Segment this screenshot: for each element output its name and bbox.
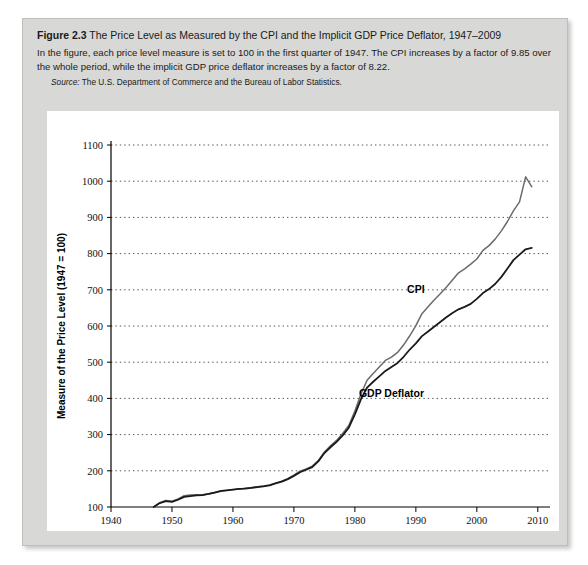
y-tick-label-700: 700	[87, 285, 103, 296]
x-tick-label-1960: 1960	[222, 515, 243, 526]
x-tick-label-1940: 1940	[101, 515, 122, 526]
x-tick-label-2000: 2000	[466, 515, 487, 526]
axes-group	[107, 141, 550, 507]
y-tick-label-600: 600	[87, 321, 103, 332]
y-tick-label-1100: 1100	[82, 140, 103, 151]
annotation-gdp-deflator: GDP Deflator	[359, 387, 424, 399]
annotation-cpi: CPI	[407, 283, 425, 295]
source-text: The U.S. Department of Commerce and the …	[82, 77, 342, 87]
figure-number: Figure 2.3	[37, 29, 87, 41]
y-tick-label-300: 300	[87, 429, 103, 440]
y-tick-label-500: 500	[87, 357, 103, 368]
source-label: Source:	[51, 77, 80, 87]
y-axis-tick-labels: 10020030040050060070080090010001100	[82, 140, 103, 513]
y-tick-label-200: 200	[87, 466, 103, 477]
y-tick-label-800: 800	[87, 248, 103, 259]
figure-card: Figure 2.3 The Price Level as Measured b…	[22, 18, 568, 546]
x-tick-label-1970: 1970	[283, 515, 304, 526]
x-tick-marks	[111, 507, 538, 512]
y-tick-label-400: 400	[87, 393, 103, 404]
y-tick-label-100: 100	[87, 502, 103, 513]
y-axis-title: Measure of the Price Level (1947 = 100)	[56, 233, 67, 419]
figure-title-text: The Price Level as Measured by the CPI a…	[89, 29, 501, 41]
x-axis-tick-labels: 19401950196019701980199020002010	[101, 515, 549, 526]
price-level-line-chart: 10020030040050060070080090010001100 1940…	[47, 111, 559, 531]
x-tick-label-2010: 2010	[527, 515, 548, 526]
figure-subtitle: In the figure, each price level measure …	[37, 46, 553, 74]
series-annotations: CPIGDP Deflator	[359, 283, 425, 398]
figure-source: Source: The U.S. Department of Commerce …	[51, 77, 553, 88]
caption-block: Figure 2.3 The Price Level as Measured b…	[37, 29, 553, 88]
chart-plot-panel: 10020030040050060070080090010001100 1940…	[47, 111, 559, 531]
data-series-group	[154, 177, 532, 507]
y-tick-label-900: 900	[87, 212, 103, 223]
gridlines-group	[111, 145, 550, 471]
y-tick-label-1000: 1000	[82, 176, 103, 187]
series-line-gdp-deflator	[154, 248, 532, 507]
series-line-cpi	[154, 177, 532, 507]
x-tick-label-1980: 1980	[344, 515, 365, 526]
x-tick-label-1950: 1950	[161, 515, 182, 526]
x-tick-label-1990: 1990	[405, 515, 426, 526]
figure-title: Figure 2.3 The Price Level as Measured b…	[37, 29, 553, 42]
